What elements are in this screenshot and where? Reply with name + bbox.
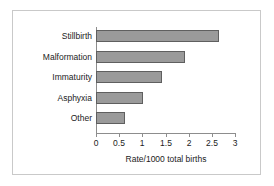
x-tick-0 — [96, 133, 97, 137]
x-tick-1 — [119, 133, 120, 137]
figure: StillbirthMalformationImmaturityAsphyxia… — [0, 0, 274, 186]
category-label-other: Other — [6, 112, 92, 124]
bar-rect — [96, 92, 143, 104]
bar-rect — [96, 51, 185, 63]
category-label-malformation: Malformation — [6, 51, 92, 63]
bar-rect — [96, 71, 162, 83]
x-tick-6 — [235, 133, 236, 137]
x-tick-5 — [212, 133, 213, 137]
x-axis-title: Rate/1000 total births — [96, 154, 236, 164]
x-tick-2 — [142, 133, 143, 137]
x-tick-3 — [166, 133, 167, 137]
category-label-asphyxia: Asphyxia — [6, 92, 92, 104]
category-label-immaturity: Immaturity — [6, 71, 92, 83]
bar-rect — [96, 30, 219, 42]
x-tick-4 — [189, 133, 190, 137]
bar-rect — [96, 112, 125, 124]
category-label-stillbirth: Stillbirth — [6, 30, 92, 42]
x-tick-label-6: 3 — [220, 138, 250, 149]
